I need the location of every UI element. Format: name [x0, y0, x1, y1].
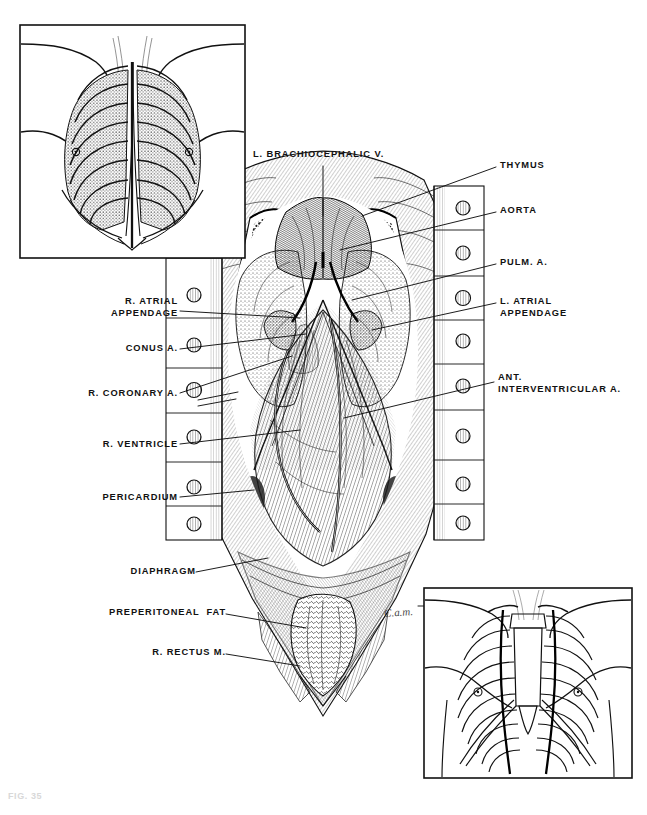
inset-lower-right — [0, 0, 647, 815]
label-thymus: THYMUS — [500, 160, 545, 172]
label-l-atrial-appendage: L. ATRIAL APPENDAGE — [500, 296, 567, 319]
label-pulm-a: PULM. A. — [500, 257, 548, 269]
label-diaphragm: DIAPHRAGM — [86, 566, 196, 578]
label-conus-a: CONUS A. — [68, 343, 178, 355]
label-r-atrial-appendage: R. ATRIAL APPENDAGE — [68, 296, 178, 319]
label-r-coronary-a: R. CORONARY A. — [48, 388, 178, 400]
label-aorta: AORTA — [500, 205, 537, 217]
label-ant-interventricular-a: ANT. INTERVENTRICULAR A. — [498, 372, 621, 395]
label-preperitoneal-fat: PREPERITONEAL FAT — [86, 607, 226, 619]
anatomical-plate: L. BRACHIOCEPHALIC V. R. ATRIAL APPENDAG… — [0, 0, 647, 815]
figure-caption: FIG. 35 — [8, 791, 42, 801]
artist-signature: C.a.m. — [384, 605, 414, 619]
label-l-brachiocephalic-v: L. BRACHIOCEPHALIC V. — [253, 149, 384, 161]
label-r-ventricle: R. VENTRICLE — [58, 439, 178, 451]
label-r-rectus-m: R. RECTUS M. — [106, 647, 226, 659]
label-pericardium: PERICARDIUM — [58, 492, 178, 504]
